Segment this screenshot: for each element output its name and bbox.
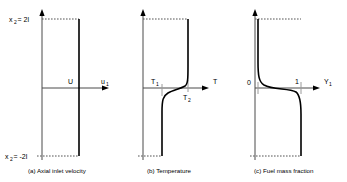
y-axis-top-value: = 2l xyxy=(18,16,30,23)
panel-axial-inlet-velocity: x 2 = 2l x 2 = -2l U u 1 (a) Axial inlet… xyxy=(0,0,116,182)
x-axis-label-sub: 1 xyxy=(106,81,109,87)
panel-caption: (c) Fuel mass fraction xyxy=(254,167,314,174)
x-axis-label: u xyxy=(101,78,105,85)
low-fraction-label: 0 xyxy=(247,79,251,86)
panel-fuel-mass-fraction: 0 1 Y 1 (c) Fuel mass fraction xyxy=(231,0,347,182)
high-temperature-sub: 2 xyxy=(188,97,191,103)
panel-caption: (b) Temperature xyxy=(147,167,191,174)
vertical-axis-arrow-icon xyxy=(140,9,145,16)
panel-caption: (a) Axial inlet velocity xyxy=(28,167,87,174)
x-axis-label-sub: 1 xyxy=(329,81,332,87)
y-axis-bottom-label: x xyxy=(5,153,9,160)
y-axis-top-label: x xyxy=(9,16,13,23)
y-axis-bottom-value: = -2l xyxy=(14,153,28,160)
vertical-axis-arrow-icon xyxy=(39,9,44,16)
high-fraction-label: 1 xyxy=(295,78,299,85)
x-axis-label: T xyxy=(213,78,218,85)
velocity-value-label: U xyxy=(68,78,73,85)
low-temperature-sub: 1 xyxy=(156,81,159,87)
panel-temperature: T 1 T 2 T (b) Temperature xyxy=(116,0,232,182)
figure-inlet-profiles: x 2 = 2l x 2 = -2l U u 1 (a) Axial inlet… xyxy=(0,0,347,182)
horizontal-axis-arrow-icon xyxy=(313,85,320,90)
vertical-axis-arrow-icon xyxy=(252,9,257,16)
horizontal-axis-arrow-icon xyxy=(202,85,209,90)
